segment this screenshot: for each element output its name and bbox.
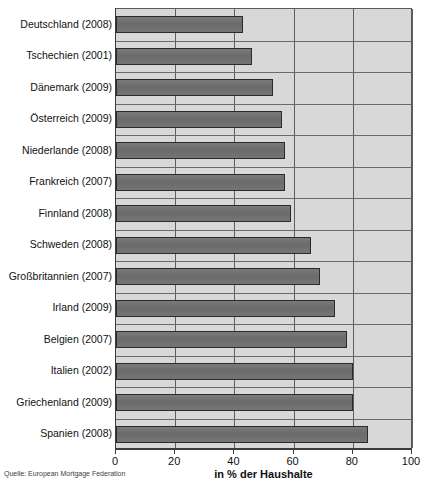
bar-row xyxy=(116,394,411,411)
category-axis-labels: Deutschland (2008)Tschechien (2001)Dänem… xyxy=(0,8,112,449)
gridline-vertical xyxy=(234,9,235,448)
gridline-vertical xyxy=(294,9,295,448)
bar-chart: Deutschland (2008)Tschechien (2001)Dänem… xyxy=(0,0,429,484)
bar-row xyxy=(116,426,411,443)
bar xyxy=(116,426,368,443)
bar xyxy=(116,394,353,411)
gridline-horizontal xyxy=(116,356,411,357)
gridline-horizontal xyxy=(116,198,411,199)
bar xyxy=(116,300,335,317)
x-tick-mark xyxy=(352,449,353,454)
gridline-horizontal xyxy=(116,419,411,420)
category-label: Belgien (2007) xyxy=(2,333,112,345)
bar-row xyxy=(116,331,411,348)
category-label: Tschechien (2001) xyxy=(2,49,112,61)
category-label: Deutschland (2008) xyxy=(2,18,112,30)
gridline-horizontal xyxy=(116,261,411,262)
gridline-horizontal xyxy=(116,230,411,231)
gridline-vertical xyxy=(412,9,413,448)
category-label: Finnland (2008) xyxy=(2,207,112,219)
bar-row xyxy=(116,237,411,254)
bar xyxy=(116,142,285,159)
x-tick-mark xyxy=(115,449,116,454)
x-tick-label: 60 xyxy=(273,455,313,467)
bar-row xyxy=(116,79,411,96)
x-tick-mark xyxy=(411,449,412,454)
bar xyxy=(116,237,311,254)
bar-row xyxy=(116,300,411,317)
category-label: Niederlande (2008) xyxy=(2,144,112,156)
gridline-horizontal xyxy=(116,41,411,42)
bar-row xyxy=(116,205,411,222)
x-tick-label: 100 xyxy=(391,455,429,467)
x-tick-label: 40 xyxy=(213,455,253,467)
bar-row xyxy=(116,111,411,128)
category-label: Griechenland (2009) xyxy=(2,396,112,408)
category-label: Dänemark (2009) xyxy=(2,81,112,93)
gridline-vertical xyxy=(353,9,354,448)
gridline-horizontal xyxy=(116,72,411,73)
source-note: Quelle: European Mortgage Federation xyxy=(4,470,125,477)
x-tick-mark xyxy=(293,449,294,454)
x-tick-mark xyxy=(233,449,234,454)
bar-row xyxy=(116,142,411,159)
x-tick-label: 80 xyxy=(332,455,372,467)
bar xyxy=(116,205,291,222)
bar-row xyxy=(116,48,411,65)
gridline-horizontal xyxy=(116,324,411,325)
x-tick-label: 20 xyxy=(154,455,194,467)
bar xyxy=(116,363,353,380)
bar xyxy=(116,331,347,348)
bar xyxy=(116,79,273,96)
bar xyxy=(116,16,243,33)
gridline-vertical xyxy=(175,9,176,448)
category-label: Schweden (2008) xyxy=(2,238,112,250)
bar-row xyxy=(116,268,411,285)
category-label: Italien (2002) xyxy=(2,364,112,376)
x-tick-mark xyxy=(174,449,175,454)
category-label: Großbritannien (2007) xyxy=(2,270,112,282)
bar xyxy=(116,48,252,65)
category-label: Spanien (2008) xyxy=(2,427,112,439)
x-axis-title: in % der Haushalte xyxy=(115,468,412,480)
bar xyxy=(116,111,282,128)
gridline-horizontal xyxy=(116,104,411,105)
category-label: Irland (2009) xyxy=(2,301,112,313)
gridline-horizontal xyxy=(116,135,411,136)
gridline-horizontal xyxy=(116,167,411,168)
bar-row xyxy=(116,363,411,380)
category-label: Frankreich (2007) xyxy=(2,175,112,187)
bar-row xyxy=(116,16,411,33)
gridline-horizontal xyxy=(116,387,411,388)
gridline-horizontal xyxy=(116,293,411,294)
bar xyxy=(116,268,320,285)
bar xyxy=(116,174,285,191)
bar-row xyxy=(116,174,411,191)
x-tick-label: 0 xyxy=(95,455,135,467)
plot-area xyxy=(115,8,412,449)
category-label: Österreich (2009) xyxy=(2,112,112,124)
x-axis-line xyxy=(115,449,412,450)
